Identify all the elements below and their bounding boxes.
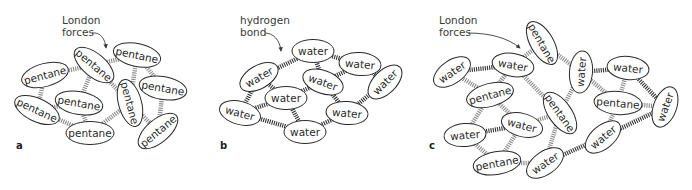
molecule-label: pentane	[68, 127, 111, 139]
water-molecule: water	[428, 51, 476, 94]
panel-label: c	[429, 140, 435, 151]
annotation-line1: London	[62, 14, 101, 26]
pentane-molecule: pentane	[111, 39, 163, 71]
panel-b: waterwaterwaterwaterwaterwaterwaterwater…	[217, 14, 408, 151]
water-molecule: water	[217, 96, 264, 129]
panel-c: pentanewaterwaterwaterwaterpentanepentan…	[428, 14, 683, 184]
water-molecule: water	[443, 122, 487, 149]
pointer-arrow-icon	[468, 33, 520, 48]
pointer-arrow-icon	[265, 33, 281, 51]
pentane-molecule: pentane	[53, 88, 104, 119]
pointer-arrow-icon	[92, 33, 106, 48]
annotation-line2: bond	[240, 26, 266, 38]
panel-label: b	[220, 140, 227, 151]
molecules-group: waterwaterwaterwaterwaterwaterwaterwater…	[217, 40, 408, 144]
water-molecule: water	[265, 87, 307, 110]
pentane-molecule: pentane	[10, 89, 63, 130]
annotation-line2: forces	[62, 26, 94, 38]
annotation-line1: hydrogen	[240, 14, 290, 26]
pentane-molecule: pentane	[66, 122, 114, 145]
pentane-molecule: pentane	[19, 58, 71, 93]
water-molecule: water	[606, 54, 650, 81]
water-molecule: water	[499, 108, 546, 141]
water-molecule: water	[568, 50, 595, 94]
molecules-group: pentanewaterwaterwaterwaterpentanepentan…	[428, 16, 683, 184]
water-molecule: water	[647, 83, 683, 130]
annotation-line1: London	[439, 14, 478, 26]
annotation-line2: forces	[439, 26, 471, 38]
molecule-label: water	[290, 126, 321, 138]
pentane-molecule: pentane	[137, 73, 188, 104]
intermolecular-forces-diagram: pentanepentanepentanepentanepentanepenta…	[0, 0, 692, 190]
panel-label: a	[16, 140, 23, 151]
pentane-molecule: pentane	[593, 89, 643, 116]
water-molecule: water	[284, 121, 326, 144]
water-molecule: water	[292, 40, 334, 63]
water-molecule: water	[580, 115, 627, 160]
molecules-group: pentanepentanepentanepentanepentanepenta…	[10, 39, 188, 155]
pentane-molecule: pentane	[471, 148, 522, 179]
water-molecule: water	[490, 50, 535, 80]
molecule-label: water	[298, 45, 329, 57]
panel-a: pentanepentanepentanepentanepentanepenta…	[10, 14, 188, 155]
molecule-label: water	[271, 92, 302, 104]
